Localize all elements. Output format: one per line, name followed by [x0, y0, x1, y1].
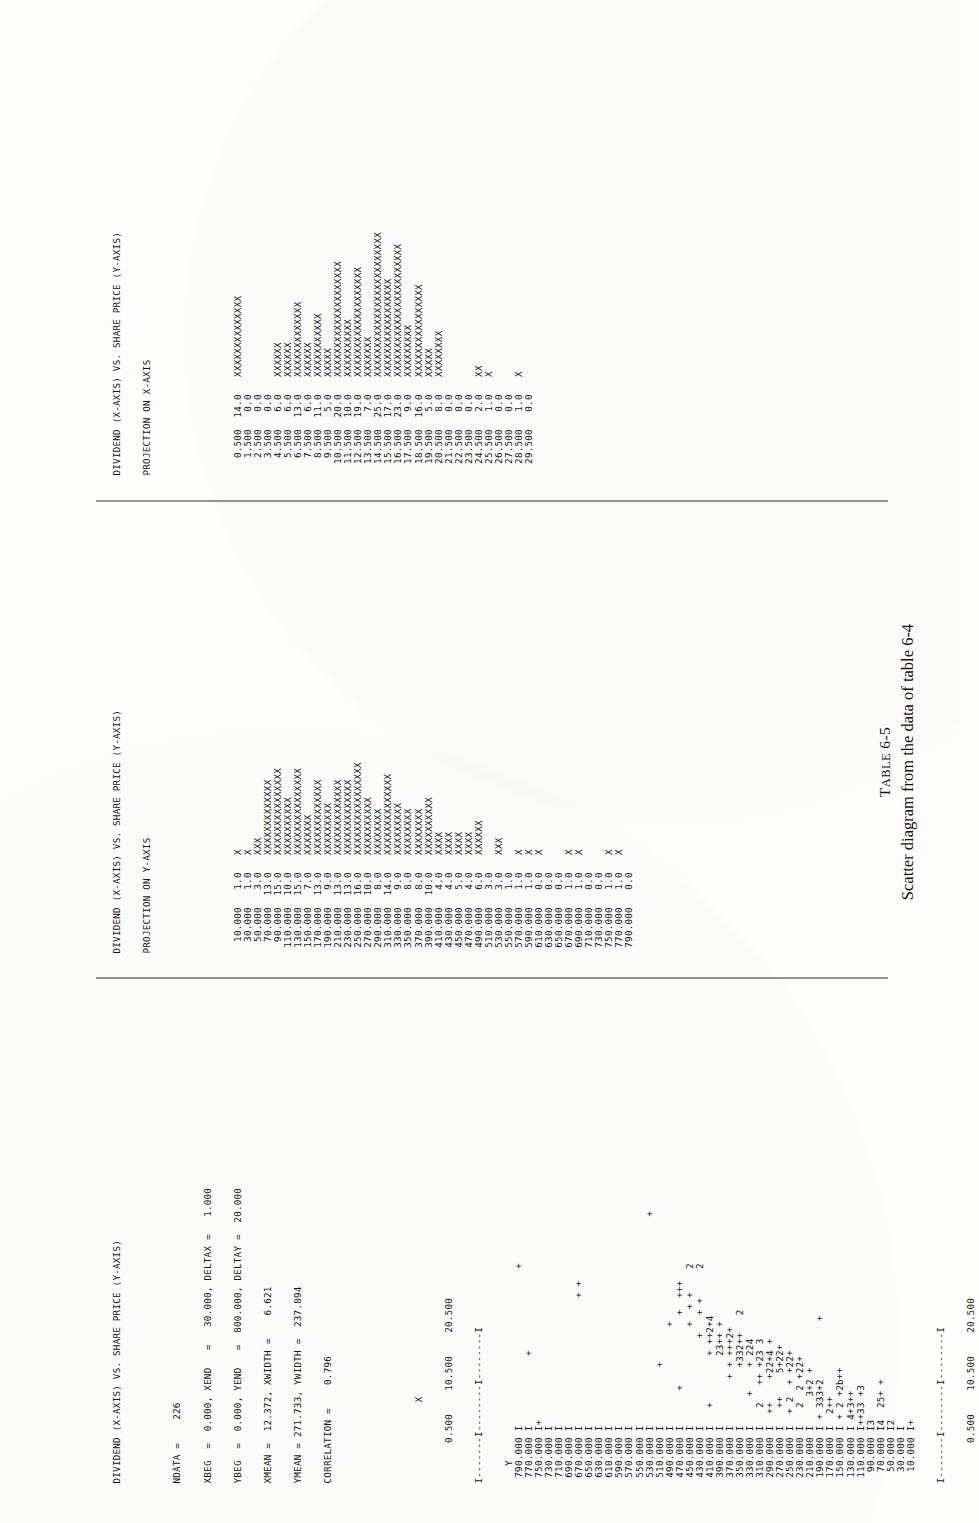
- stat-ybeg-yend-deltay: YBEG = 0.000, YEND = 800.000, DELTAY = 2…: [233, 1187, 243, 1483]
- scatter-row-plot: +: [523, 1350, 534, 1425]
- spacer: [142, 1187, 152, 1483]
- scatter-axis-bottom: I-------I--------I--------I: [936, 1187, 946, 1483]
- scatter-axis-top: I-------I--------I--------I: [474, 1187, 484, 1483]
- scatter-rows-container: 790.000 I + 770.000 I + 750.000 I+ 730.0…: [514, 1187, 916, 1483]
- stat-xmean-xwidth: XMEAN = 12.372, XWIDTH = 6.621: [263, 1187, 273, 1483]
- spacer: [353, 1187, 363, 1483]
- yproj-panel-subtitle: PROJECTION ON Y-AXIS: [142, 710, 152, 953]
- scatter-x-ticks-top: 0.500 10.500 20.500: [444, 1187, 454, 1483]
- yproj-row-count: 0.0: [623, 872, 634, 907]
- scatter-x-ticks-bottom: 0.500 10.500 20.500: [966, 1187, 976, 1483]
- scatter-row-plot: +: [533, 1419, 544, 1425]
- table-label: TABLE 6-5: [876, 0, 894, 1523]
- yproj-row-bin: 790.000: [623, 907, 634, 953]
- xproj-panel-title: DIVIDEND (X-AXIS) VS. SHARE PRICE (Y-AXI…: [112, 231, 122, 475]
- scatter-axis-bottom-text: I-------I--------I--------I: [935, 1326, 946, 1483]
- yproj-row: 790.000 0.0: [624, 710, 634, 953]
- spacer: [172, 231, 182, 475]
- spacer: [172, 710, 182, 953]
- yproj-rows-container: 10.000 1.0 X 30.000 1.0 X 50.000 3.0 XXX…: [233, 710, 635, 953]
- table-number: 6-5: [876, 726, 893, 752]
- xproj-rows-container: 0.500 14.0 XXXXXXXXXXXXXX 1.500 0.0 2.50…: [233, 231, 534, 475]
- yproj-row-bar: [623, 854, 634, 871]
- spacer: [203, 710, 213, 953]
- xproj-row-count: 0.0: [523, 394, 534, 429]
- scatter-panel-title: DIVIDEND (X-AXIS) VS. SHARE PRICE (Y-AXI…: [112, 1187, 122, 1483]
- table-label-rest: ABLE: [879, 753, 893, 787]
- stat-ndata: NDATA = 226: [172, 1187, 182, 1483]
- stat-correlation: CORRELATION = 0.796: [323, 1187, 333, 1483]
- stat-ymean-ywidth: YMEAN = 271.733, YWIDTH = 237.894: [293, 1187, 303, 1483]
- yproj-panel-title: DIVIDEND (X-AXIS) VS. SHARE PRICE (Y-AXI…: [112, 710, 122, 953]
- caption-text: Scatter diagram from the data of table 6…: [898, 0, 918, 1523]
- figure-caption: TABLE 6-5 Scatter diagram from the data …: [876, 0, 918, 1523]
- x-projection-panel: DIVIDEND (X-AXIS) VS. SHARE PRICE (Y-AXI…: [92, 231, 554, 475]
- xproj-panel-subtitle: PROJECTION ON X-AXIS: [142, 231, 152, 475]
- xproj-row: 29.500 0.0: [524, 231, 534, 475]
- scatter-diagram-panel: DIVIDEND (X-AXIS) VS. SHARE PRICE (Y-AXI…: [92, 1187, 979, 1483]
- y-projection-panel: DIVIDEND (X-AXIS) VS. SHARE PRICE (Y-AXI…: [92, 710, 655, 953]
- panel-divider-rule-2: [96, 500, 888, 501]
- scatter-x-ticks-bottom-text: 0.500 10.500 20.500: [965, 1297, 976, 1483]
- xproj-row-bin: 29.500: [523, 429, 534, 475]
- stat-xbeg-xend-deltax: XBEG = 0.000, XEND = 30.000, DELTAX = 1.…: [203, 1187, 213, 1483]
- xproj-row-bar: [523, 376, 534, 393]
- panel-divider-rule-1: [96, 977, 888, 978]
- scatter-row-plot: + +: [573, 1280, 584, 1425]
- scatter-x-axis-label-text: X: [413, 1396, 424, 1483]
- scatter-x-axis-label: X: [414, 1187, 424, 1483]
- scatter-axis-top-text: I-------I--------I--------I: [473, 1326, 484, 1483]
- scatter-x-ticks-top-text: 0.500 10.500 20.500: [443, 1297, 454, 1483]
- table-label-initial: T: [876, 787, 893, 797]
- spacer: [203, 231, 213, 475]
- spacer: [383, 1187, 393, 1483]
